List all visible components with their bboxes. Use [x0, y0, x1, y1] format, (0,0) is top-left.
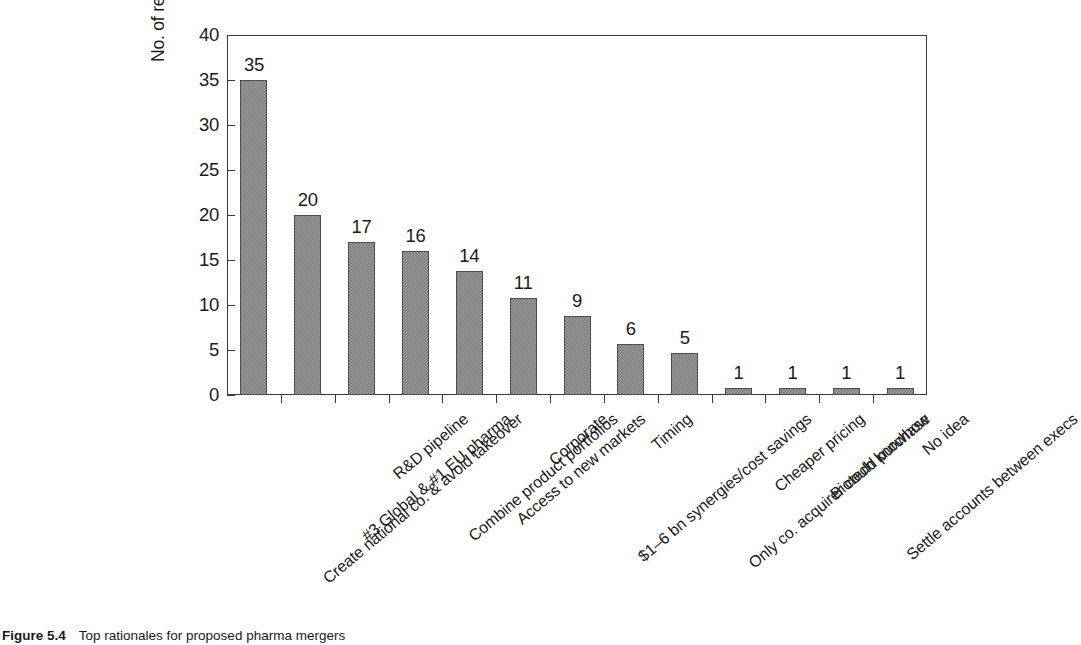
bar-value-label: 1 — [709, 364, 769, 383]
bar — [617, 344, 644, 395]
y-axis-tick-mark — [227, 395, 235, 396]
bar — [725, 388, 752, 395]
bar-value-label: 1 — [762, 364, 822, 383]
x-axis-tick-mark — [765, 395, 766, 403]
y-axis-tick-label: 30 — [181, 116, 219, 135]
x-axis-tick-mark — [819, 395, 820, 403]
bar-value-label: 6 — [601, 320, 661, 339]
x-axis-tick-mark — [496, 395, 497, 403]
figure-caption-label: Figure 5.4 — [2, 628, 66, 643]
x-axis-category-label: Timing — [649, 411, 695, 453]
y-axis-tick-mark — [227, 35, 235, 36]
x-axis-tick-mark — [873, 395, 874, 403]
y-axis-tick-mark — [227, 80, 235, 81]
bar — [887, 388, 914, 395]
y-axis-tick-mark — [227, 305, 235, 306]
bar-value-label: 20 — [278, 191, 338, 210]
bar-value-label: 14 — [439, 247, 499, 266]
bar-value-label: 16 — [385, 227, 445, 246]
x-axis-tick-mark — [442, 395, 443, 403]
bar — [456, 271, 483, 395]
y-axis-tick-label: 40 — [181, 26, 219, 45]
bar — [402, 251, 429, 395]
bar — [564, 316, 591, 395]
y-axis-tick-label: 25 — [181, 161, 219, 180]
bar — [294, 215, 321, 395]
y-axis-tick-mark — [227, 350, 235, 351]
bar-value-label: 1 — [870, 364, 930, 383]
y-axis-tick-mark — [227, 125, 235, 126]
bar — [779, 388, 806, 395]
x-axis-tick-mark — [658, 395, 659, 403]
bar-value-label: 17 — [332, 218, 392, 237]
bar — [240, 80, 267, 395]
y-axis-tick-label: 5 — [181, 341, 219, 360]
y-axis-tick-label: 0 — [181, 386, 219, 405]
figure-caption-text: Top rationales for proposed pharma merge… — [79, 628, 345, 643]
x-axis-tick-mark — [335, 395, 336, 403]
bar-value-label: 11 — [493, 274, 553, 293]
x-axis-tick-mark — [281, 395, 282, 403]
bar — [671, 353, 698, 395]
bar-value-label: 5 — [655, 329, 715, 348]
bar — [510, 298, 537, 395]
x-axis-tick-mark — [604, 395, 605, 403]
x-axis-tick-mark — [712, 395, 713, 403]
bar-value-label: 9 — [547, 292, 607, 311]
y-axis-title: No. of respondents citing rationale — [148, 0, 172, 62]
y-axis-tick-label: 35 — [181, 71, 219, 90]
figure-caption: Figure 5.4Top rationales for proposed ph… — [2, 628, 642, 645]
bar — [348, 242, 375, 395]
y-axis-tick-label: 10 — [181, 296, 219, 315]
bar-value-label: 35 — [224, 56, 284, 75]
x-axis-tick-mark — [389, 395, 390, 403]
y-axis-tick-mark — [227, 215, 235, 216]
y-axis-tick-mark — [227, 260, 235, 261]
x-axis-tick-mark — [550, 395, 551, 403]
bar-value-label: 1 — [816, 364, 876, 383]
y-axis-tick-label: 15 — [181, 251, 219, 270]
y-axis-tick-label: 20 — [181, 206, 219, 225]
bar — [833, 388, 860, 395]
y-axis-tick-mark — [227, 170, 235, 171]
